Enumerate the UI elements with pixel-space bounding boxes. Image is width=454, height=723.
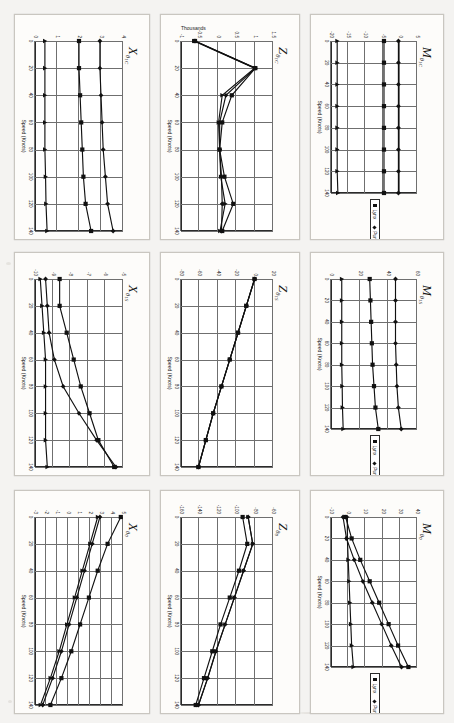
y-tick-label: -0.5	[197, 30, 202, 38]
legend-label: Lynx	[373, 209, 378, 219]
series-layer	[331, 279, 417, 429]
x-tick-label: 140	[28, 701, 33, 709]
title-subscript2: 1S	[418, 299, 423, 304]
x-tick-label: 60	[174, 120, 179, 125]
y-tick-label: 20	[380, 509, 385, 514]
y-tick-label: 1	[252, 35, 257, 38]
chart-panel-x-theta1c: Xθ1C02040608010012014043210Speed (Knots)	[14, 14, 150, 240]
chart-panel-x-theta0: Xθ0020406080100120140543210-1-2-3Speed (…	[14, 490, 150, 714]
y-tick-label: -2	[44, 510, 49, 514]
y-tick-label: -7	[85, 272, 90, 276]
legend-item-puma: Puma	[373, 462, 378, 476]
x-tick-label: 120	[174, 436, 179, 444]
chart-title-m-theta1s: Mθ1S	[418, 285, 437, 304]
legend: LynxPumaBo105	[370, 435, 380, 476]
y-tick-label: -160	[179, 505, 184, 514]
chart-title-z-theta1c: Zθ1C	[274, 47, 293, 63]
y-tick-label: 4	[110, 511, 115, 514]
chart-panel-m-theta1s: Mθ1S0204060801001201406040200Speed (Knot…	[310, 252, 444, 476]
y-tick-label: -1	[179, 34, 184, 38]
x-tick-label: 100	[28, 409, 33, 417]
x-axis-label: Speed (Knots)	[21, 517, 27, 705]
y-tick-label: 5	[415, 35, 420, 38]
legend-item-lynx: Lynx	[373, 440, 378, 455]
x-tick-label: 60	[174, 357, 179, 362]
x-axis-label: Speed (Knots)	[317, 279, 323, 429]
y-tick-label: 10	[363, 509, 368, 514]
x-tick-label: 100	[174, 409, 179, 417]
gridline-vertical	[331, 193, 417, 194]
y-tick-label: 1	[77, 511, 82, 514]
y-tick-label: 2	[88, 511, 93, 514]
chart-title-x-theta0: Xθ0	[124, 523, 143, 537]
x-tick-label: 140	[174, 463, 179, 471]
x-tick-label: 140	[324, 425, 329, 433]
legend-item-lynx: Lynx	[373, 204, 378, 219]
legend-label: Lynx	[373, 445, 378, 455]
plot-area-x-theta0: 020406080100120140543210-1-2-3	[35, 517, 123, 705]
chart-panel-z-theta1c: Zθ1C0204060801001201401.510.50-0.5-1Spee…	[160, 14, 300, 240]
x-axis-label: Speed (Knots)	[317, 41, 323, 193]
y-tick-label: 1.5	[271, 32, 276, 38]
x-axis-label: Speed (Knots)	[167, 279, 173, 467]
title-subscript2: 1S	[274, 295, 279, 300]
x-tick-label: 20	[324, 536, 329, 541]
chart-panel-z-theta0: Zθ0020406080100120140-60-80-100-120-140-…	[160, 490, 300, 714]
x-tick-label: 80	[174, 622, 179, 627]
gridline-vertical	[331, 667, 417, 668]
square-marker-icon	[373, 204, 376, 207]
y-tick-label: -10	[329, 507, 334, 514]
y-tick-label: 1	[55, 35, 60, 38]
x-tick-label: 80	[28, 384, 33, 389]
plot-area-x-theta1s: 020406080100120140-5-6-7-8-9-10	[35, 279, 123, 467]
plot-area-m-theta1s: 0204060801001201406040200	[331, 279, 417, 429]
x-tick-label: 40	[324, 82, 329, 87]
y-tick-label: 3	[99, 35, 104, 38]
chart-title-m-theta0: Mθ0	[418, 523, 437, 540]
x-axis-label: Speed (Knots)	[317, 517, 323, 667]
y-tick-label: 0	[252, 273, 257, 276]
x-tick-label: 60	[324, 104, 329, 109]
x-tick-label: 80	[28, 622, 33, 627]
x-tick-label: 0	[324, 40, 329, 43]
legend: LynxPumaBo105	[370, 199, 380, 240]
diamond-marker-icon	[373, 462, 377, 466]
chart-panel-m-theta1c: Mθ1C02040608010012014050-5-10-15-20Speed…	[310, 14, 444, 240]
y-tick-label: 2	[77, 35, 82, 38]
title-subscript2: 1C	[124, 58, 129, 64]
x-tick-label: 120	[324, 642, 329, 650]
x-tick-label: 80	[324, 362, 329, 367]
x-tick-label: 40	[324, 557, 329, 562]
y-tick-label: -120	[215, 505, 220, 514]
x-tick-label: 60	[28, 357, 33, 362]
y-tick-label: -15	[346, 31, 351, 38]
y-tick-label: 60	[415, 271, 420, 276]
x-tick-label: 40	[174, 568, 179, 573]
legend-item-puma: Puma	[373, 226, 378, 240]
y-tick-label: 20	[357, 271, 362, 276]
y-tick-label: 0	[215, 35, 220, 38]
x-tick-label: 60	[324, 579, 329, 584]
title-symbol: M	[420, 285, 435, 296]
plot-area-z-theta1c: 0204060801001201401.510.50-0.5-1	[181, 41, 273, 231]
x-tick-label: 20	[28, 541, 33, 546]
x-axis-label: Speed (Knots)	[167, 41, 173, 231]
y-tick-label: 40	[415, 509, 420, 514]
y-tick-label: 0	[66, 511, 71, 514]
x-tick-label: 80	[324, 600, 329, 605]
x-tick-label: 20	[28, 66, 33, 71]
y-tick-label: -9	[50, 272, 55, 276]
x-tick-label: 120	[28, 200, 33, 208]
y-tick-label: -20	[234, 269, 239, 276]
x-axis-label: Speed (Knots)	[21, 279, 27, 467]
legend: LynxPumaBo105	[370, 673, 380, 714]
x-tick-label: 40	[174, 330, 179, 335]
x-tick-label: 0	[174, 516, 179, 519]
x-tick-label: 40	[28, 568, 33, 573]
series-layer	[35, 41, 123, 231]
x-axis-label: Speed (Knots)	[167, 517, 173, 705]
series-layer	[331, 41, 417, 193]
y-tick-label: -80	[252, 507, 257, 514]
y-tick-label: -5	[121, 272, 126, 276]
title-subscript2: 1C	[274, 57, 279, 63]
